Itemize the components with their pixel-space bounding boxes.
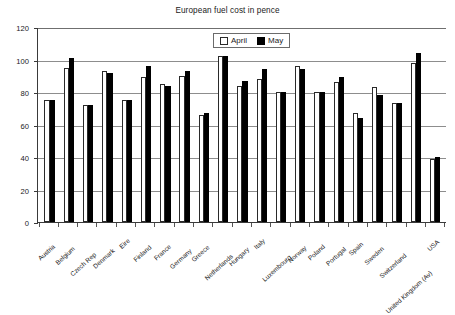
x-axis-tick-label: Sweden [364,246,386,267]
bar-group [368,28,387,222]
x-axis-tick-label: Austria [37,244,56,262]
x-axis-label-cell: Eire [116,228,135,308]
bar-series-layer [38,28,446,222]
bar-group [252,28,271,222]
bar-may [242,81,247,222]
bar-group [214,28,233,222]
x-axis-label-cell: Italy [252,228,271,308]
x-axis-label-cell: Luxembourg [271,228,290,308]
bar-may [127,100,132,222]
bar-group [59,28,78,222]
legend-item-may: May [257,36,283,45]
bar-group [156,28,175,222]
y-axis-tick-label: 20 [0,186,29,195]
x-axis-labels: AustriaBelgiumCzech RepDenmarkEireFinlan… [37,228,446,308]
x-axis-label-cell: Austria [39,228,58,308]
bar-group [291,28,310,222]
bar-may [69,58,74,222]
bar-group [79,28,98,222]
bar-may [185,71,190,222]
bar-may [435,157,440,222]
bar-may [50,100,55,222]
x-axis-label-cell: Denmark [97,228,116,308]
x-axis-tick-label: Norway [287,245,308,265]
legend-item-april: April [220,36,247,45]
bar-may [107,73,112,223]
legend-swatch-may [257,37,265,45]
x-axis-label-cell: United Kingdom (Av) [406,228,425,308]
x-axis-label-cell: Germany [174,228,193,308]
x-axis-label-cell: Netherlands [213,228,232,308]
x-axis-label-cell: Hungary [232,228,251,308]
bar-group [40,28,59,222]
legend-label-april: April [231,36,247,45]
y-axis-tick-label: 60 [0,121,29,130]
x-axis-label-cell: Spain [348,228,367,308]
bar-group [310,28,329,222]
bar-group [387,28,406,222]
bar-may [416,53,421,222]
x-axis-label-cell: Finland [136,228,155,308]
x-axis-tick-label: Portugal [325,246,347,267]
x-axis-label-cell: Poland [310,228,329,308]
bar-may [397,103,402,222]
bar-group [98,28,117,222]
bar-may [281,92,286,222]
x-axis-tick-label: USA [427,239,441,253]
x-axis-label-cell: Portugal [329,228,348,308]
bar-group [406,28,425,222]
bar-group [194,28,213,222]
bar-may [339,77,344,222]
bar-group [271,28,290,222]
x-axis-label-cell: Norway [290,228,309,308]
y-axis-tick-label: 80 [0,89,29,98]
chart-title: European fuel cost in pence [0,6,455,15]
bar-may [204,113,209,222]
bar-group [349,28,368,222]
bar-group [136,28,155,222]
x-axis-tick-label: Eire [118,238,131,251]
chart-legend: AprilMay [213,33,290,48]
x-axis-label-cell: Greece [194,228,213,308]
bar-may [300,69,305,222]
x-axis-tick-label: Italy [253,238,266,251]
bar-group [426,28,445,222]
y-axis-tick-label: 100 [0,56,29,65]
bar-may [320,92,325,222]
bar-may [377,95,382,222]
bar-group [117,28,136,222]
y-axis-tick-label: 0 [0,219,29,228]
x-axis-label-cell: USA [426,228,445,308]
legend-label-may: May [268,36,283,45]
bar-may [262,69,267,222]
y-axis-tick-label: 40 [0,154,29,163]
y-axis-tick-label: 120 [0,24,29,33]
x-axis-tick-label: France [153,244,172,262]
plot-area [37,28,446,223]
bar-group [329,28,348,222]
bar-may [165,86,170,223]
bar-may [146,66,151,222]
x-axis-tick-label: Poland [307,244,326,262]
x-axis-tick-label: Spain [348,241,365,257]
x-axis-tick-label: Greece [191,244,211,263]
x-axis-tick-label: Finland [133,244,153,263]
bar-may [223,56,228,222]
bar-group [233,28,252,222]
x-axis-tick-label: Hungary [228,246,251,267]
bar-may [358,118,363,222]
x-axis-tick-label: Belgium [55,246,77,267]
bar-group [175,28,194,222]
bar-may [88,105,93,222]
legend-swatch-april [220,37,228,45]
